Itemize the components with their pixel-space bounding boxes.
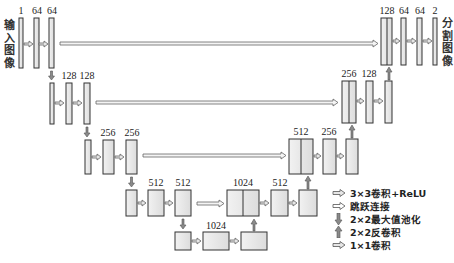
channel-label: 512 [273,178,288,188]
channel-label: 1 [19,6,24,16]
feature-map-l4-conv1 [148,190,164,216]
legend-item-skip: 跳跃连接 [332,199,426,212]
channel-label: 256 [342,69,357,79]
channel-label: 64 [32,6,42,16]
feature-map-l1-conv2 [49,18,54,68]
legend: 3×3卷积+ReLU 跳跃连接 2×2最大值池化 2×2反卷积 1×1卷积 [332,186,426,251]
feature-map-d4-conv1 [271,190,288,216]
channel-label: 512 [149,178,164,188]
right-arrow-icon [332,239,346,251]
down-arrow-icon [332,213,346,225]
feature-map-bn-conv1 [203,232,229,250]
legend-item-upconv: 2×2反卷积 [332,225,426,238]
channel-label: 64 [47,6,57,16]
channel-label: 128 [380,6,395,16]
channel-label: 64 [399,6,409,16]
legend-item-conv: 3×3卷积+ReLU [332,186,426,199]
feature-map-bn-conv2 [241,232,267,250]
feature-map-d4-conv2 [299,190,317,216]
channel-label: 512 [294,127,309,137]
feature-map-l3-conv2 [126,140,137,174]
feature-map-bn-pool [175,232,191,250]
feature-map-l3-pool [85,140,91,174]
feature-map-l1-input [19,18,23,68]
input-image-label: 输入图像 [3,20,15,70]
channel-label: 1024 [233,178,253,188]
channel-label: 128 [362,69,377,79]
channel-label: 64 [415,6,425,16]
feature-map-d3-conv1 [323,139,336,174]
feature-map-l2-conv1 [66,83,72,124]
unet-diagram: 1 64 64 128 128 256 256 512 512 1024 102… [0,0,454,263]
feature-map-l3-conv1 [103,140,114,174]
feature-map-l2-pool [50,83,54,124]
channel-label: 1024 [206,221,226,231]
feature-map-l2-conv2 [84,83,90,124]
up-arrow-icon [332,226,346,238]
skip-connections [60,40,378,207]
feature-map-l1-conv1 [34,18,39,68]
channel-label: 256 [101,128,116,138]
feature-map-d1-conv1 [401,18,406,65]
feature-map-d3-conv2 [346,139,358,174]
channel-label: 512 [176,178,191,188]
channel-label: 256 [125,128,140,138]
feature-map-l4-conv2 [175,190,191,216]
legend-item-pool: 2×2最大值池化 [332,212,426,225]
feature-map-d1-conv2 [417,18,422,65]
feature-map-d1-output [433,18,437,65]
channel-label: 128 [80,71,95,81]
skip-arrow-icon [332,200,346,212]
output-image-label: 分割图像 [441,18,453,68]
channel-label: 2 [433,6,438,16]
channel-label: 128 [62,71,77,81]
legend-item-1x1conv: 1×1卷积 [332,238,426,251]
feature-map-d2-conv1 [366,81,373,123]
feature-map-d2-conv2 [385,81,392,123]
right-arrow-icon [332,187,346,199]
channel-label: 256 [322,127,337,137]
feature-map-l4-pool [126,190,137,216]
